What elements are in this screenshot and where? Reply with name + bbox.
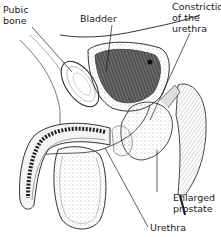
label-urethra: Urethra (150, 222, 186, 233)
bladder (88, 42, 169, 111)
anatomy-diagram: Pubic bone Bladder Constriction of the u… (0, 0, 221, 237)
label-constriction-of-urethra: Constriction of the urethra (172, 1, 221, 34)
label-enlarged-prostate: Enlarged prostate (173, 192, 215, 214)
leader-pubic-bone (32, 27, 72, 72)
label-pubic-bone: Pubic bone (3, 4, 28, 26)
scrotum (54, 147, 106, 229)
label-bladder: Bladder (80, 13, 117, 24)
